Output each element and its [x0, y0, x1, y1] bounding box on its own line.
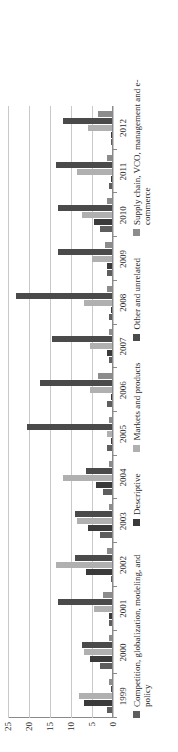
legend-swatch-icon [133, 229, 140, 236]
bar-2008-s2 [84, 300, 113, 306]
xtick-label-2003: 2003 [118, 512, 128, 530]
xtick-label-2004: 2004 [118, 469, 128, 487]
legend-item-2[interactable]: Markets and products [132, 363, 142, 452]
bar-2000-s2 [84, 649, 113, 655]
bar-group-2002: 2002 [8, 543, 113, 587]
bar-group-2006: 2006 [8, 368, 113, 412]
bar-2004-s1 [96, 482, 113, 488]
bar-2004-s2 [63, 475, 113, 481]
category-tick [113, 324, 117, 325]
bar-2002-s1 [86, 569, 113, 575]
bar-2007-s2 [90, 343, 113, 349]
bar-group-2010: 2010 [8, 193, 113, 237]
bar-2004-s3 [86, 468, 113, 474]
xtick-label-2011: 2011 [118, 163, 128, 181]
legend-item-3[interactable]: Other and unrelated [132, 258, 142, 340]
bar-2011-s3 [56, 162, 113, 168]
bar-group-2011: 2011 [8, 150, 113, 194]
bar-2003-s1 [88, 525, 113, 531]
bar-2000-s1 [90, 656, 113, 662]
bar-group-2003: 2003 [8, 499, 113, 543]
xtick-label-2009: 2009 [118, 250, 128, 268]
bar-2005-s3 [27, 424, 113, 430]
ytick-label-10: 10 [66, 722, 76, 731]
bar-group-2008: 2008 [8, 281, 113, 325]
xtick-label-2012: 2012 [118, 119, 128, 137]
chart-legend: Competition, globalization, modeling, an… [132, 18, 174, 718]
bar-1999-s1 [84, 700, 113, 706]
legend-item-1[interactable]: Descriptive [132, 474, 142, 526]
category-axis-line [112, 106, 113, 718]
xtick-label-1999: 1999 [118, 687, 128, 705]
bar-group-2009: 2009 [8, 237, 113, 281]
bar-group-1999: 1999 [8, 674, 113, 718]
bar-2010-s2 [82, 212, 114, 218]
bar-2010-s3 [58, 205, 113, 211]
bar-2003-s2 [77, 518, 113, 524]
ytick-label-0: 0 [108, 722, 118, 727]
legend-swatch-icon [133, 334, 140, 341]
chart-figure: 0510152025 19992000200120022003200420052… [0, 0, 178, 752]
legend-swatch-icon [133, 711, 140, 718]
xtick-label-2001: 2001 [118, 600, 128, 618]
ytick-label-25: 25 [3, 722, 13, 731]
bar-group-2000: 2000 [8, 631, 113, 675]
category-tick [113, 149, 117, 150]
bar-2002-s3 [75, 555, 113, 561]
legend-label: Supply chain, VCO, management and e-comm… [132, 66, 153, 225]
category-tick [113, 542, 117, 543]
category-tick [113, 236, 117, 237]
bar-1999-s2 [79, 693, 113, 699]
legend-label: Markets and products [132, 363, 142, 441]
ytick-label-15: 15 [45, 722, 55, 731]
xtick-label-2010: 2010 [118, 206, 128, 224]
xtick-label-2005: 2005 [118, 425, 128, 443]
bar-2003-s3 [75, 511, 113, 517]
bar-2001-s3 [58, 599, 113, 605]
bar-2006-s3 [40, 380, 114, 386]
ytick-label-5: 5 [87, 722, 97, 727]
bar-group-2007: 2007 [8, 325, 113, 369]
category-tick [113, 673, 117, 674]
bar-2000-s3 [82, 642, 114, 648]
category-tick [113, 192, 117, 193]
category-tick [113, 367, 117, 368]
bar-2012-s4 [98, 111, 113, 117]
legend-item-0[interactable]: Competition, globalization, modeling, an… [132, 548, 153, 718]
legend-label: Competition, globalization, modeling, an… [132, 548, 153, 707]
plot-area: 0510152025 19992000200120022003200420052… [8, 106, 113, 718]
legend-swatch-icon [133, 445, 140, 452]
gridline-0 [113, 106, 114, 718]
category-tick [113, 455, 117, 456]
bar-2009-s2 [92, 256, 113, 262]
bar-group-2005: 2005 [8, 412, 113, 456]
legend-item-4[interactable]: Supply chain, VCO, management and e-comm… [132, 66, 153, 236]
xtick-label-2008: 2008 [118, 294, 128, 312]
bar-2002-s2 [56, 562, 113, 568]
legend-swatch-icon [133, 519, 140, 526]
bar-2010-s1 [94, 219, 113, 225]
xtick-label-2006: 2006 [118, 381, 128, 399]
bar-2001-s2 [94, 606, 113, 612]
legend-label: Descriptive [132, 474, 142, 515]
bar-group-2012: 2012 [8, 106, 113, 150]
bar-group-2001: 2001 [8, 587, 113, 631]
category-tick [113, 411, 117, 412]
xtick-label-2002: 2002 [118, 556, 128, 574]
bar-2012-s2 [88, 125, 113, 131]
xtick-label-2007: 2007 [118, 337, 128, 355]
category-tick [113, 280, 117, 281]
category-tick [113, 630, 117, 631]
bar-group-2004: 2004 [8, 456, 113, 500]
bar-2006-s2 [90, 387, 113, 393]
legend-label: Other and unrelated [132, 258, 142, 329]
bar-2011-s2 [77, 169, 113, 175]
bar-2009-s3 [58, 249, 113, 255]
category-tick [113, 717, 117, 718]
ytick-label-20: 20 [24, 722, 34, 731]
bar-2012-s3 [63, 118, 113, 124]
category-tick [113, 498, 117, 499]
bar-2007-s3 [52, 336, 113, 342]
category-tick [113, 586, 117, 587]
bar-2008-s3 [16, 293, 113, 299]
